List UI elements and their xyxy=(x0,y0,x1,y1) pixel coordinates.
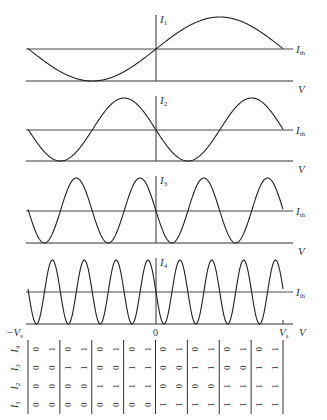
threshold-label: Ith xyxy=(295,286,306,300)
code-cell: 1 xyxy=(111,347,121,352)
code-cell: 1 xyxy=(270,347,280,352)
current-label-i2: I2 xyxy=(159,94,168,108)
zero-label: 0 xyxy=(153,327,158,338)
code-cell: 0 xyxy=(206,384,216,389)
code-cell: 1 xyxy=(206,403,216,408)
v-axis-label: V xyxy=(298,83,306,95)
panel-i3: I3IthV xyxy=(26,174,306,257)
panel-i2: I2IthV xyxy=(26,94,306,175)
neg-vs-label: −Vs xyxy=(6,326,23,340)
code-cell: 0 xyxy=(47,402,57,407)
panel-i4: I4Ith xyxy=(26,256,306,324)
code-cell: 0 xyxy=(143,402,153,407)
quantizer-diagram: I1IthVI2IthVI3IthVI4Ith−Vs0VsV I40101010… xyxy=(0,0,327,420)
threshold-label: Ith xyxy=(295,205,306,219)
code-cell: 0 xyxy=(31,347,41,352)
code-cell: 0 xyxy=(79,402,89,407)
code-cell: 0 xyxy=(79,384,89,389)
code-cell: 0 xyxy=(47,384,57,389)
v-axis-label: V xyxy=(299,326,307,338)
code-cell: 1 xyxy=(158,403,168,408)
code-cell: 1 xyxy=(127,384,137,389)
code-cell: 0 xyxy=(111,402,121,407)
code-cell: 0 xyxy=(158,365,168,370)
code-cell: 0 xyxy=(174,365,184,370)
code-cell: 0 xyxy=(95,365,105,370)
code-cell: 1 xyxy=(254,403,264,408)
code-cell: 0 xyxy=(63,347,73,352)
code-cell: 1 xyxy=(79,347,89,352)
code-cell: 0 xyxy=(111,365,121,370)
code-cell: 0 xyxy=(31,365,41,370)
code-cell: 0 xyxy=(127,347,137,352)
current-label-i4: I4 xyxy=(159,256,168,270)
code-cell: 1 xyxy=(254,384,264,389)
code-cell: 1 xyxy=(127,366,137,371)
code-cell: 1 xyxy=(206,347,216,352)
row-label-i3: I3 xyxy=(8,364,22,373)
code-cell: 0 xyxy=(95,347,105,352)
code-cell: 0 xyxy=(47,365,57,370)
waveform-panels: I1IthVI2IthVI3IthVI4Ith−Vs0VsV xyxy=(6,13,307,340)
code-cell: 1 xyxy=(190,403,200,408)
row-label-i4: I4 xyxy=(8,345,22,354)
code-cell: 1 xyxy=(222,384,232,389)
code-cell: 0 xyxy=(222,365,232,370)
code-cell: 1 xyxy=(270,366,280,371)
code-cell: 0 xyxy=(254,347,264,352)
row-label-i1: I1 xyxy=(8,401,22,410)
code-cell: 1 xyxy=(143,366,153,371)
code-cell: 1 xyxy=(238,347,248,352)
v-axis-label: V xyxy=(298,163,306,175)
code-cell: 1 xyxy=(270,403,280,408)
code-cell: 1 xyxy=(143,347,153,352)
code-cell: 1 xyxy=(190,366,200,371)
code-cell: 0 xyxy=(158,384,168,389)
code-cell: 1 xyxy=(254,366,264,371)
pos-vs-label: Vs xyxy=(279,326,289,340)
code-cell: 1 xyxy=(222,403,232,408)
code-cell: 0 xyxy=(222,347,232,352)
row-label-i2: I2 xyxy=(8,382,22,391)
current-label-i3: I3 xyxy=(159,174,168,188)
threshold-label: Ith xyxy=(295,43,306,57)
code-cell: 1 xyxy=(47,347,57,352)
code-cell: 1 xyxy=(206,366,216,371)
code-table: I40101010101010101I30011001100110011I200… xyxy=(8,340,283,414)
panel-i1: I1IthV xyxy=(26,13,306,95)
code-cell: 1 xyxy=(238,384,248,389)
code-cell: 0 xyxy=(158,347,168,352)
code-cell: 1 xyxy=(95,384,105,389)
code-cell: 0 xyxy=(63,384,73,389)
code-cell: 0 xyxy=(95,402,105,407)
code-cell: 1 xyxy=(270,384,280,389)
code-cell: 0 xyxy=(63,402,73,407)
code-cell: 1 xyxy=(79,366,89,371)
code-cell: 1 xyxy=(238,403,248,408)
code-cell: 0 xyxy=(31,402,41,407)
code-cell: 0 xyxy=(190,347,200,352)
code-cell: 0 xyxy=(190,384,200,389)
code-cell: 1 xyxy=(111,384,121,389)
code-cell: 1 xyxy=(63,366,73,371)
code-cell: 0 xyxy=(127,402,137,407)
code-cell: 0 xyxy=(31,384,41,389)
code-cell: 0 xyxy=(238,365,248,370)
code-cell: 0 xyxy=(174,384,184,389)
threshold-label: Ith xyxy=(295,124,306,138)
code-cell: 1 xyxy=(174,403,184,408)
current-label-i1: I1 xyxy=(159,13,168,27)
code-cell: 1 xyxy=(143,384,153,389)
v-axis-label: V xyxy=(298,245,306,257)
code-cell: 1 xyxy=(174,347,184,352)
